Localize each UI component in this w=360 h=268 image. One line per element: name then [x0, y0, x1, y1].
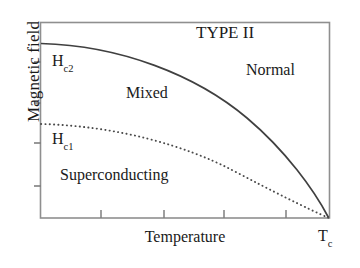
hc2-subscript: c2: [64, 63, 74, 74]
region-label-superconducting: Superconducting: [60, 167, 168, 183]
hc2-label: Hc2: [52, 53, 73, 73]
region-label-normal: Normal: [246, 62, 295, 78]
type-ii-label: TYPE II: [196, 24, 254, 41]
x-axis-label: Temperature: [40, 229, 330, 245]
tc-subscript: c: [328, 238, 333, 249]
region-label-mixed: Mixed: [126, 85, 168, 101]
tc-label: Tc: [318, 228, 332, 248]
phase-diagram-figure: Magnetic field Temperature TYPE II Norma…: [0, 0, 360, 268]
plot-frame: [41, 23, 330, 219]
y-axis-label: Magnetic field: [25, 0, 42, 152]
hc2-base: H: [52, 52, 64, 69]
tc-base: T: [318, 227, 328, 244]
hc1-base: H: [52, 130, 64, 147]
hc1-label: Hc1: [52, 131, 73, 151]
hc1-subscript: c1: [64, 141, 74, 152]
